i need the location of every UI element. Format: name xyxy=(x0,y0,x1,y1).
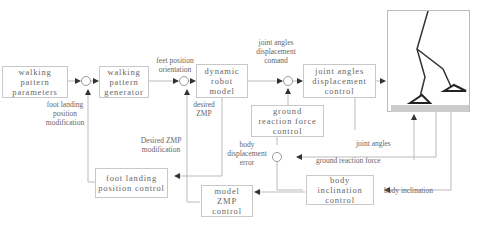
ground-reaction-force-label: ground reaction force xyxy=(316,156,406,165)
ground-reaction-force-control-block: ground reaction force control xyxy=(251,105,324,137)
foot-landing-position-control-block: foot landing position control xyxy=(95,168,168,198)
control-block-diagram: walking pattern parameters walking patte… xyxy=(0,0,483,225)
joint-angles-displacement-control-block: joint angles displacement control xyxy=(303,64,376,98)
body-inclination-label: body inclination xyxy=(384,186,454,195)
walking-pattern-parameters-block: walking pattern parameters xyxy=(2,66,68,98)
desired-zmp-label: desired ZMP xyxy=(188,100,220,118)
body-inclination-control-block: body inclination control xyxy=(306,175,374,205)
biped-robot-icon xyxy=(388,11,471,113)
body-displacement-error-label: body displacement error xyxy=(222,140,272,167)
summing-junction-2 xyxy=(179,76,189,86)
walking-pattern-generator-block: walking pattern generator xyxy=(99,66,149,98)
desired-zmp-modification-label: Desired ZMP modification xyxy=(135,136,187,154)
joint-angles-displacement-comand-label: joint angles displacement comand xyxy=(246,38,306,65)
joint-angles-label: joint angles xyxy=(356,139,416,148)
feet-position-orientation-label: feet position orientation xyxy=(150,56,200,74)
summing-junction-3 xyxy=(283,76,293,86)
foot-landing-position-modification-label: foot landing position modification xyxy=(42,100,88,127)
summing-junction-4 xyxy=(272,152,282,162)
summing-junction-1 xyxy=(81,76,91,86)
model-zmp-control-block: model ZMP control xyxy=(201,185,253,217)
biped-robot-figure xyxy=(387,10,470,112)
dynamic-robot-model-block: dynamic robot model xyxy=(196,64,248,98)
